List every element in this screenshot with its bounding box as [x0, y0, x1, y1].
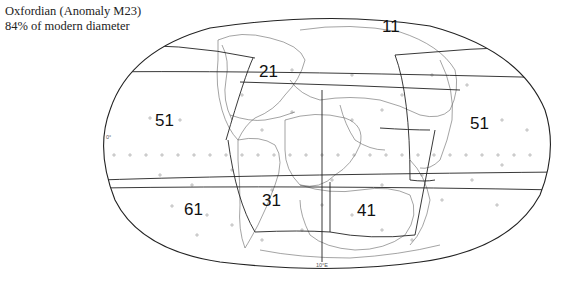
region-label-61: 61	[184, 200, 203, 219]
region-label-51-west: 51	[155, 111, 174, 130]
paleogeographic-map: 11 21 31 41 51 51 61 0° 10°E	[0, 0, 566, 291]
continent-outlines	[217, 26, 457, 258]
region-label-31: 31	[262, 191, 281, 210]
meridian-label: 10°E	[316, 262, 328, 268]
equator-label: 0°	[106, 134, 111, 140]
region-label-41: 41	[357, 201, 376, 220]
frame-boundaries	[100, 45, 560, 262]
region-label-21: 21	[259, 62, 278, 81]
region-label-51-east: 51	[470, 114, 489, 133]
region-label-11: 11	[382, 17, 400, 36]
globe-outline	[104, 18, 551, 268]
